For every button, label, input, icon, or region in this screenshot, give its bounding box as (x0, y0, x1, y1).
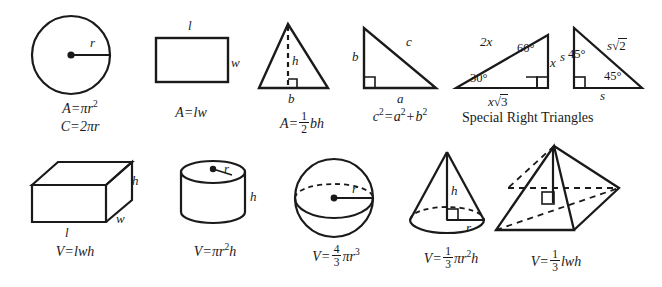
cylinder-height-label: h (250, 190, 257, 203)
circle-circ-lhs: C (61, 119, 70, 134)
cylinder-volume-h: h (229, 244, 236, 259)
triangle-frac-numerator: 1 (299, 110, 309, 123)
triangle-height-label: h (292, 54, 299, 67)
rectangle-area-lhs: A (175, 105, 184, 120)
prism-height-label: h (132, 174, 139, 187)
triangle-shape (250, 10, 354, 102)
tri-45-45-90-base-s-label: s (600, 89, 605, 102)
circle-area-formula: A=πr2 (24, 102, 136, 117)
tri-45-45-90-leg-s-label: s (560, 50, 565, 63)
cylinder-radius-label: r (224, 162, 229, 175)
triangle-frac-denominator: 2 (299, 123, 309, 135)
tri-45-45-90-hyp-radicand: 2 (618, 38, 627, 52)
pythagorean-theorem-formula: c2=a2+b2 (343, 110, 457, 125)
circle-shape (24, 10, 136, 102)
figure-cylinder: r h V=πr2h (160, 150, 280, 270)
sphere-volume-eq: = (321, 249, 331, 264)
prism-length-label: l (65, 226, 69, 239)
triangle-30-60-90-shape (452, 10, 562, 102)
sphere-volume-formula: V=43πr3 (276, 243, 396, 268)
figure-rectangular-prism: h w l V=lwh (20, 150, 150, 270)
circle-area-lhs: A (62, 101, 71, 116)
figure-pyramid: V=13lwh (486, 140, 636, 270)
triangle-area-rhs: bh (310, 116, 324, 131)
cylinder-volume-eq: = (202, 244, 212, 259)
triangle-area-formula: A=12bh (250, 110, 354, 135)
prism-volume-lhs: V (56, 244, 65, 259)
cone-volume-eq: = (432, 251, 442, 266)
rectangle-width-label: w (231, 56, 240, 69)
pythagorean-a: a (394, 109, 401, 124)
rectangle-area-eq: = (184, 105, 194, 120)
right-triangle-leg-a-label: a (397, 92, 404, 105)
figure-triangle: h b A=12bh (250, 10, 354, 130)
tri-30-60-90-base-radicand: 3 (500, 94, 509, 108)
special-right-triangles-caption: Special Right Triangles (462, 110, 593, 126)
right-triangle-leg-b-label: b (352, 50, 359, 63)
cylinder-volume-formula: V=πr2h (157, 245, 273, 260)
sphere-volume-pi-r: πr (342, 249, 354, 264)
prism-volume-eq: = (64, 244, 74, 259)
pyramid-volume-rhs: lwh (561, 254, 581, 269)
figure-rectangle: l w A=lw (136, 14, 246, 124)
prism-volume-formula: V=lwh (20, 245, 130, 260)
pyramid-frac-denominator: 3 (550, 261, 560, 273)
pyramid-frac-numerator: 1 (550, 248, 560, 261)
cone-volume-h: h (471, 251, 478, 266)
right-triangle-hyp-c-label: c (406, 35, 412, 48)
sphere-frac-denominator: 3 (332, 256, 342, 268)
rectangle-length-label: l (188, 19, 192, 32)
tri-30-60-90-base-radical: √3 (494, 94, 509, 108)
circle-circ-eq: = (70, 119, 80, 134)
tri-45-45-90-angle-45-bottom-label: 45° (604, 70, 622, 83)
tri-30-60-90-angle-60-label: 60° (517, 42, 535, 55)
figure-right-triangle: b c a c2=a2+b2 (346, 10, 454, 130)
prism-width-label: w (116, 212, 125, 225)
cylinder-shape (160, 150, 280, 242)
pyramid-shape (486, 140, 636, 250)
cone-frac-denominator: 3 (443, 258, 453, 270)
triangle-area-fraction: 12 (299, 110, 309, 135)
pyramid-volume-fraction: 13 (550, 248, 560, 273)
pyramid-volume-eq: = (539, 254, 549, 269)
sphere-volume-fraction: 43 (332, 243, 342, 268)
cone-height-label: h (451, 184, 458, 197)
triangle-base-label: b (288, 92, 295, 105)
cone-volume-fraction: 13 (443, 245, 453, 270)
circle-area-rhs: πr (81, 101, 93, 116)
cone-frac-numerator: 1 (443, 245, 453, 258)
triangle-area-eq: = (288, 116, 298, 131)
rectangle-area-formula: A=lw (136, 106, 246, 121)
cone-volume-pi-r: πr (454, 251, 466, 266)
figure-circle: r A=πr2 C=2πr (24, 10, 136, 130)
circle-circumference-formula: C=2πr (24, 120, 136, 135)
prism-volume-rhs: lwh (74, 244, 94, 259)
rectangle-area-rhs: lw (194, 105, 207, 120)
sphere-volume-lhs: V (312, 249, 321, 264)
tri-45-45-90-hyp-radical: √2 (612, 38, 627, 52)
rectangular-prism-shape (20, 150, 150, 242)
sphere-shape (278, 150, 398, 246)
tri-45-45-90-angle-45-top-label: 45° (568, 48, 586, 61)
tri-30-60-90-angle-30-label: 30° (470, 72, 488, 85)
geometry-formula-sheet: r A=πr2 C=2πr l w A=lw h b A=12bh (0, 0, 662, 287)
circle-circ-rhs: 2πr (80, 119, 99, 134)
cone-radius-label: r (466, 221, 471, 234)
figure-special-right-triangles: 2x 60° x 30° x√3 s 45° s√2 45° s Special… (452, 10, 660, 130)
pythagorean-b-exponent: 2 (422, 107, 427, 117)
cylinder-volume-lhs: V (194, 244, 203, 259)
tri-30-60-90-side-x-label: x (550, 56, 556, 69)
cylinder-volume-pi-r: πr (212, 244, 224, 259)
tri-30-60-90-base-label: x√3 (488, 94, 508, 108)
tri-30-60-90-hypotenuse-label: 2x (480, 35, 492, 48)
circle-radius-label: r (90, 36, 95, 49)
pyramid-volume-formula: V=13lwh (486, 248, 626, 273)
right-triangle-shape (346, 10, 454, 102)
sphere-frac-numerator: 4 (332, 243, 342, 256)
figure-sphere: r V=43πr3 (278, 150, 398, 270)
pythagorean-eq: = (384, 109, 394, 124)
sphere-radius-label: r (352, 182, 357, 195)
sphere-volume-exponent: 3 (355, 247, 360, 257)
tri-45-45-90-hypotenuse-label: s√2 (607, 38, 627, 52)
circle-area-exponent: 2 (93, 99, 98, 109)
